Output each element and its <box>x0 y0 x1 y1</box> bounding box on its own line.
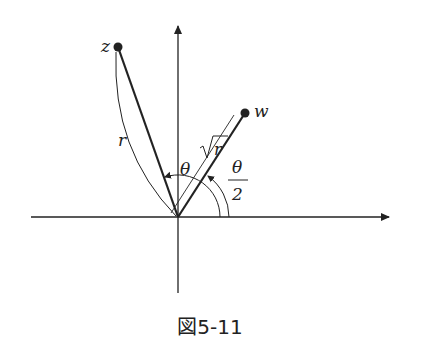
w-label: w <box>254 101 269 121</box>
theta-label: θ <box>180 159 190 179</box>
sqrt-r-label: r <box>214 140 223 159</box>
half-theta-numerator: θ <box>232 157 242 177</box>
z-vector <box>118 47 178 217</box>
complex-plane-diagram: z r w r θ θ 2 図5-11 <box>0 0 421 358</box>
z-point <box>114 43 123 52</box>
w-point <box>241 109 250 118</box>
r-label: r <box>118 130 127 150</box>
half-theta-denominator: 2 <box>231 184 243 204</box>
z-label: z <box>100 36 111 56</box>
half-theta-arc <box>208 176 229 217</box>
figure-caption: 図5-11 <box>177 315 242 339</box>
